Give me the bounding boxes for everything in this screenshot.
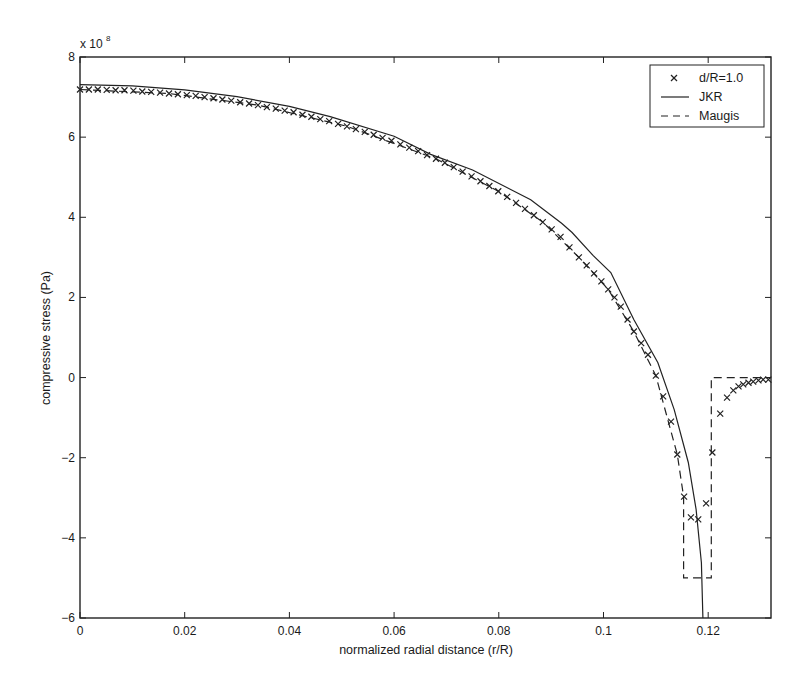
y-tick-label: −6 (61, 611, 75, 625)
y-tick-label: 0 (68, 371, 75, 385)
y-axis-ticks: −6−4−202468 (61, 50, 771, 625)
plot-series (77, 85, 771, 618)
stress-chart: 00.020.040.060.080.10.12 −6−4−202468 x 1… (0, 0, 811, 683)
x-marker-icon (695, 516, 701, 522)
x-marker-icon (645, 352, 651, 358)
x-axis-label: normalized radial distance (r/R) (339, 643, 513, 657)
y-tick-label: −4 (61, 531, 75, 545)
x-marker-icon (95, 86, 101, 92)
series-line-maugis (80, 90, 771, 578)
x-marker-icon (228, 98, 234, 104)
x-marker-icon (202, 94, 208, 100)
x-marker-icon (282, 108, 288, 114)
x-marker-icon (148, 89, 154, 95)
x-tick-label: 0.1 (595, 624, 612, 638)
y-axis-label: compressive stress (Pa) (39, 271, 53, 405)
x-marker-icon (113, 87, 119, 93)
x-marker-icon (703, 500, 709, 506)
legend: d/R=1.0 JKR Maugis (650, 65, 764, 127)
x-marker-icon (730, 387, 736, 393)
x-marker-icon (210, 95, 216, 101)
x-tick-label: 0.02 (173, 624, 197, 638)
x-marker-icon (605, 286, 611, 292)
x-marker-icon (724, 395, 730, 401)
x-marker-icon (291, 109, 297, 115)
plot-frame (80, 57, 771, 618)
x-marker-icon (631, 328, 637, 334)
y-tick-label: −2 (61, 451, 75, 465)
series-markers-d-r-1-0 (77, 86, 771, 522)
y-exponent-superscript: 8 (106, 34, 111, 43)
x-marker-icon (193, 93, 199, 99)
legend-label-data: d/R=1.0 (699, 71, 743, 85)
y-tick-label: 6 (68, 130, 75, 144)
x-marker-icon (709, 450, 715, 456)
y-exponent-label: x 10 (80, 37, 103, 51)
x-marker-icon (104, 87, 110, 93)
x-marker-icon (717, 411, 723, 417)
x-marker-icon (750, 379, 756, 385)
series-line-jkr (80, 85, 703, 618)
x-tick-label: 0.08 (487, 624, 511, 638)
x-marker-icon (273, 106, 279, 112)
x-tick-label: 0.06 (382, 624, 406, 638)
x-marker-icon (130, 88, 136, 94)
x-axis-ticks: 00.020.040.060.080.10.12 (77, 57, 721, 638)
x-tick-label: 0 (77, 624, 84, 638)
x-marker-icon (688, 514, 694, 520)
legend-label-maugis: Maugis (699, 109, 739, 123)
x-marker-icon (344, 123, 350, 129)
x-tick-label: 0.04 (278, 624, 302, 638)
x-marker-icon (121, 87, 127, 93)
y-tick-label: 2 (68, 290, 75, 304)
y-tick-label: 4 (68, 210, 75, 224)
x-tick-label: 0.12 (697, 624, 721, 638)
x-marker-icon (219, 96, 225, 102)
y-tick-label: 8 (68, 50, 75, 64)
x-marker-icon (139, 88, 145, 94)
legend-label-jkr: JKR (699, 90, 723, 104)
